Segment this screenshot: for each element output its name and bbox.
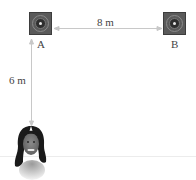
person-face-icon [12,124,50,180]
vertical-distance-label: 6 m [9,74,26,86]
horizontal-distance-label: 8 m [97,16,114,28]
